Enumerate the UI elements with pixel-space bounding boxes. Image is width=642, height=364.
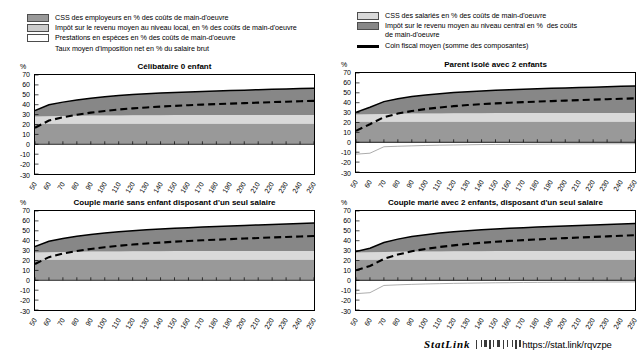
legend-right-solid-marker-2: [357, 42, 379, 50]
legend-left-label-1: Impôt sur le revenu moyen au niveau loca…: [55, 23, 297, 32]
chart-title: Couple marié sans enfant disposant d'un …: [34, 198, 315, 208]
area-series: [356, 223, 635, 252]
legend-left-swatch-1: [27, 24, 49, 32]
statlink-footer: StatLink https://stat.link/rqvzpe: [424, 338, 612, 350]
y-tick-70: 70: [0, 207, 30, 214]
y-tick-40: 40: [321, 237, 351, 244]
y-axis-labels: 706050403020100-10-20-30: [321, 210, 351, 311]
y-tick-40: 40: [0, 101, 30, 108]
legend-left-label-3: Taux moyen d'imposition net en % du sala…: [55, 44, 209, 53]
y-tick-30: 30: [0, 111, 30, 118]
area-series: [35, 260, 314, 281]
legend-left: CSS des employeurs en % des coûts de mai…: [27, 13, 327, 54]
y-tick-50: 50: [0, 227, 30, 234]
y-tick-0: 0: [321, 139, 351, 146]
x-axis-labels: 5060708090100110120130140150160170180190…: [34, 313, 315, 333]
area-series-benefits: [356, 280, 635, 293]
y-tick-10: 10: [321, 129, 351, 136]
chart-panel-parent-isole-2-enfants: Parent isolé avec 2 enfants%706050403020…: [321, 60, 642, 195]
area-series: [35, 115, 314, 124]
y-tick-70: 70: [321, 69, 351, 76]
legend-left-item-0: CSS des employeurs en % des coûts de mai…: [27, 13, 327, 22]
y-tick-40: 40: [0, 237, 30, 244]
y-tick-0: 0: [0, 141, 30, 148]
y-tick--10: -10: [0, 151, 30, 158]
x-axis-labels: 5060708090100110120130140150160170180190…: [34, 177, 315, 197]
y-tick--10: -10: [0, 287, 30, 294]
legend-right-label-1: Impôt sur le revenu moyen au niveau cent…: [385, 21, 577, 39]
chart-title: Parent isolé avec 2 enfants: [355, 60, 636, 70]
statlink-url[interactable]: https://stat.link/rqvzpe: [522, 339, 611, 350]
statlink-label: StatLink: [424, 338, 470, 350]
y-tick-0: 0: [321, 277, 351, 284]
plot-area: [34, 210, 315, 311]
y-tick--30: -30: [321, 308, 351, 315]
legend-right-item-1: Impôt sur le revenu moyen au niveau cent…: [357, 21, 642, 39]
x-axis-labels: 5060708090100110120130140150160170180190…: [355, 175, 636, 195]
chart-title: Couple marié avec 2 enfants, disposant d…: [355, 198, 636, 208]
y-axis-labels: 706050403020100-10-20-30: [0, 74, 30, 175]
y-tick-10: 10: [0, 267, 30, 274]
y-axis-labels: 706050403020100-10-20-30: [0, 210, 30, 311]
legend-left-item-3: Taux moyen d'imposition net en % du sala…: [27, 44, 327, 53]
y-tick-20: 20: [321, 257, 351, 264]
y-tick-60: 60: [0, 81, 30, 88]
y-tick-50: 50: [0, 91, 30, 98]
y-tick-0: 0: [0, 277, 30, 284]
y-tick--10: -10: [321, 287, 351, 294]
legend-right: CSS des salariés en % des coûts de main-…: [357, 11, 642, 51]
area-series: [35, 251, 314, 260]
legend-left-swatch-2: [27, 34, 49, 42]
y-tick-70: 70: [321, 207, 351, 214]
area-series-benefits: [356, 142, 635, 154]
y-tick-70: 70: [0, 71, 30, 78]
y-tick-60: 60: [321, 217, 351, 224]
y-tick--20: -20: [0, 297, 30, 304]
y-axis-labels: 706050403020100-10-20-30: [321, 72, 351, 173]
y-tick-40: 40: [321, 99, 351, 106]
y-tick--20: -20: [321, 159, 351, 166]
chart-panel-celibataire-0-enfant: Célibataire 0 enfant%706050403020100-10-…: [0, 62, 321, 195]
plot-area: [34, 74, 315, 175]
y-tick-20: 20: [0, 121, 30, 128]
legend-right-item-2: Coin fiscal moyen (somme des composantes…: [357, 41, 642, 50]
y-tick--30: -30: [0, 172, 30, 179]
y-tick-10: 10: [0, 131, 30, 138]
legend-left-item-1: Impôt sur le revenu moyen au niveau loca…: [27, 23, 327, 32]
chart-title: Célibataire 0 enfant: [34, 62, 315, 72]
chart-panel-couple-marie-2-enfants: Couple marié avec 2 enfants, disposant d…: [321, 198, 642, 333]
legend-right-label-0: CSS des salariés en % des coûts de main-…: [385, 11, 546, 20]
legend-left-label-2: Prestations en espèces en % des coûts de…: [55, 33, 235, 42]
area-series: [35, 223, 314, 252]
y-tick-60: 60: [0, 217, 30, 224]
y-tick-50: 50: [321, 227, 351, 234]
chart-panel-couple-marie-sans-enfant: Couple marié sans enfant disposant d'un …: [0, 198, 321, 333]
figure-root: CSS des employeurs en % des coûts de mai…: [0, 0, 642, 364]
y-tick-50: 50: [321, 89, 351, 96]
y-tick-20: 20: [0, 257, 30, 264]
legend-left-item-2: Prestations en espèces en % des coûts de…: [27, 33, 327, 42]
y-tick-30: 30: [0, 247, 30, 254]
legend-right-item-0: CSS des salariés en % des coûts de main-…: [357, 11, 642, 20]
legend-left-dashed-marker-3: [27, 45, 49, 53]
plot-area: [355, 210, 636, 311]
legend-left-swatch-0: [27, 14, 49, 22]
plot-area: [355, 72, 636, 173]
y-tick-20: 20: [321, 119, 351, 126]
x-axis-labels: 5060708090100110120130140150160170180190…: [355, 313, 636, 333]
y-tick-30: 30: [321, 247, 351, 254]
legend-right-label-2: Coin fiscal moyen (somme des composantes…: [385, 41, 528, 50]
legend-right-swatch-1: [357, 22, 379, 30]
area-series: [35, 124, 314, 145]
y-tick--30: -30: [321, 170, 351, 177]
legend-left-label-0: CSS des employeurs en % des coûts de mai…: [55, 13, 228, 22]
legend-right-swatch-0: [357, 12, 379, 20]
y-tick--30: -30: [0, 308, 30, 315]
y-tick--10: -10: [321, 149, 351, 156]
barcode-icon: [476, 340, 516, 349]
y-tick-60: 60: [321, 79, 351, 86]
area-series: [356, 260, 635, 281]
y-tick--20: -20: [321, 297, 351, 304]
y-tick--20: -20: [0, 161, 30, 168]
area-series: [356, 122, 635, 143]
